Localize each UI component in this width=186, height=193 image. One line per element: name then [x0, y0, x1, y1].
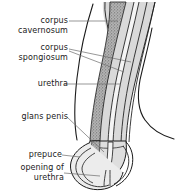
label-prepuce: prepuce — [6, 150, 62, 160]
label-glans-penis: glans penis — [4, 112, 68, 122]
label-corpus-spongiosum: corpus spongiosum — [4, 43, 68, 62]
label-opening-of-urethra: opening of urethra — [4, 163, 64, 182]
label-urethra: urethra — [8, 79, 68, 89]
shaft-skin-outline — [75, 4, 93, 140]
anatomical-figure: corpus cavernosum corpus spongiosum uret… — [0, 0, 186, 193]
label-corpus-cavernosum: corpus cavernosum — [6, 16, 68, 35]
